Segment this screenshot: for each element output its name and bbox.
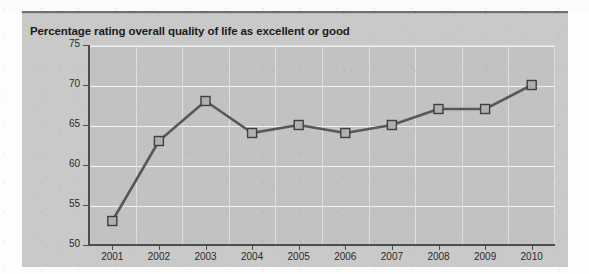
y-axis-label: 65 bbox=[40, 118, 80, 129]
y-axis-label: 50 bbox=[40, 238, 80, 249]
data-point-marker bbox=[294, 121, 303, 130]
data-point-marker bbox=[154, 137, 163, 146]
x-axis-tick bbox=[299, 245, 300, 250]
data-point-marker bbox=[341, 129, 350, 138]
page-bottom-margin bbox=[0, 267, 589, 274]
x-axis-tick bbox=[392, 245, 393, 250]
x-axis-label: 2008 bbox=[415, 251, 463, 262]
y-axis-tick bbox=[83, 245, 89, 246]
y-axis-label-wrap: 75 bbox=[38, 45, 80, 46]
x-axis-label: 2005 bbox=[275, 251, 323, 262]
x-axis-tick bbox=[252, 245, 253, 250]
data-point-marker bbox=[527, 81, 536, 90]
chart-figure: Percentage rating overall quality of lif… bbox=[0, 0, 589, 274]
y-axis-label: 70 bbox=[40, 78, 80, 89]
data-point-marker bbox=[481, 105, 490, 114]
data-series-line bbox=[89, 45, 555, 245]
x-axis-label: 2010 bbox=[508, 251, 556, 262]
chart-title: Percentage rating overall quality of lif… bbox=[30, 25, 350, 37]
data-point-marker bbox=[387, 121, 396, 130]
data-point-marker bbox=[434, 105, 443, 114]
x-axis-label: 2007 bbox=[368, 251, 416, 262]
series-polyline bbox=[112, 85, 531, 221]
y-axis-label: 55 bbox=[40, 198, 80, 209]
data-point-marker bbox=[248, 129, 257, 138]
y-axis-label-wrap: 60 bbox=[38, 165, 80, 166]
data-point-marker bbox=[108, 217, 117, 226]
y-axis-label-wrap: 70 bbox=[38, 85, 80, 86]
x-axis-label: 2001 bbox=[88, 251, 136, 262]
data-point-marker bbox=[201, 97, 210, 106]
x-axis-tick bbox=[485, 245, 486, 250]
x-axis-tick bbox=[345, 245, 346, 250]
x-axis-tick bbox=[112, 245, 113, 250]
y-axis-label: 60 bbox=[40, 158, 80, 169]
x-axis-label: 2006 bbox=[321, 251, 369, 262]
x-axis-label: 2002 bbox=[135, 251, 183, 262]
x-axis-tick bbox=[532, 245, 533, 250]
y-axis-label-wrap: 50 bbox=[38, 245, 80, 246]
x-axis-tick bbox=[206, 245, 207, 250]
page-right-margin bbox=[568, 14, 589, 267]
x-axis-tick bbox=[159, 245, 160, 250]
x-axis-label: 2009 bbox=[461, 251, 509, 262]
x-axis-label: 2003 bbox=[182, 251, 230, 262]
page-left-margin bbox=[0, 14, 22, 274]
x-axis-label: 2004 bbox=[228, 251, 276, 262]
y-axis-label-wrap: 65 bbox=[38, 125, 80, 126]
y-axis-label: 75 bbox=[40, 38, 80, 49]
x-axis-tick bbox=[439, 245, 440, 250]
y-axis-label-wrap: 55 bbox=[38, 205, 80, 206]
